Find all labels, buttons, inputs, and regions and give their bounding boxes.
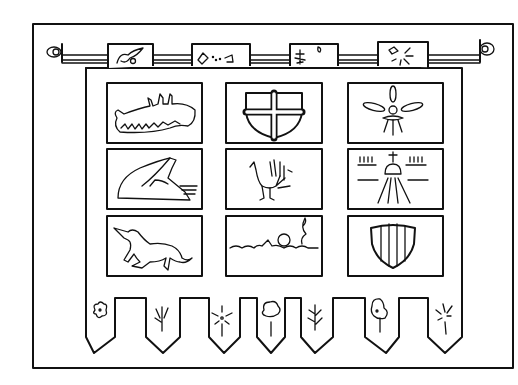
rod-finial-right (480, 40, 494, 62)
banner-drawing (0, 0, 518, 385)
top-tab-1 (108, 44, 153, 68)
rod-finial-left (47, 44, 62, 62)
